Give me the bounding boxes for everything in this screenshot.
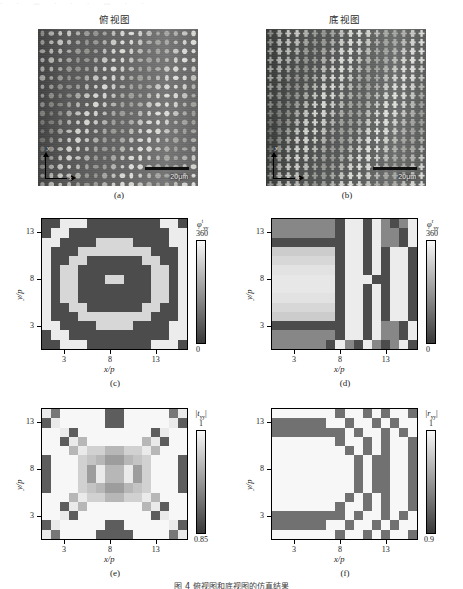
heatmap-cell — [42, 493, 51, 502]
x-tick-label: 8 — [330, 545, 350, 554]
heatmap-cell — [160, 483, 169, 492]
heatmap-cell — [299, 265, 308, 274]
heatmap-cell — [281, 219, 290, 228]
heatmap-cell — [354, 293, 363, 302]
heatmap-cell — [363, 275, 372, 284]
x-tick — [340, 540, 341, 544]
heatmap-cell — [69, 520, 78, 529]
heatmap-cell — [345, 284, 354, 293]
heatmap-cell — [151, 520, 160, 529]
heatmap-cell — [60, 437, 69, 446]
heatmap-cell — [78, 483, 87, 492]
heatmap-cell — [399, 293, 408, 302]
heatmap-cell — [317, 455, 326, 464]
heatmap-cell — [78, 502, 87, 511]
heatmap-cell — [272, 303, 281, 312]
heatmap-cell — [272, 228, 281, 237]
heatmap-cell — [124, 321, 133, 330]
heatmap-cell — [178, 409, 187, 418]
heatmap-cell — [372, 219, 381, 228]
heatmap-cell — [115, 284, 124, 293]
heatmap-cell — [151, 340, 160, 349]
heatmap-cell — [178, 437, 187, 446]
heatmap-cell — [408, 321, 417, 330]
heatmap-cell — [299, 340, 308, 349]
heatmap-cell — [115, 446, 124, 455]
heatmap-cell — [290, 511, 299, 520]
heatmap-cell — [96, 265, 105, 274]
heatmap-cell — [308, 530, 317, 539]
heatmap-cell — [169, 446, 178, 455]
heatmap-cell — [60, 511, 69, 520]
heatmap-cell — [105, 502, 114, 511]
heatmap-cell — [69, 502, 78, 511]
heatmap-cell — [399, 228, 408, 237]
heatmap-cell — [372, 321, 381, 330]
colorbar-title-e: |tyy| — [195, 408, 207, 420]
heatmap-cell — [345, 446, 354, 455]
heatmap-cell — [381, 437, 390, 446]
heatmap-cell — [308, 409, 317, 418]
heatmap-cell — [133, 530, 142, 539]
heatmap-cell — [87, 474, 96, 483]
heatmap-cell — [115, 228, 124, 237]
heatmap-cell — [272, 502, 281, 511]
heatmap-cell — [317, 483, 326, 492]
heatmap-cell — [372, 409, 381, 418]
heatmap-cell — [326, 474, 335, 483]
heatmap-cell — [124, 530, 133, 539]
heatmap-cell — [160, 530, 169, 539]
heatmap-cell — [345, 312, 354, 321]
heatmap-cell — [399, 446, 408, 455]
heatmap-cell — [381, 465, 390, 474]
heatmap-cell — [408, 238, 417, 247]
heatmap-cell — [345, 293, 354, 302]
heatmap-cell — [345, 520, 354, 529]
heatmap-cell — [345, 455, 354, 464]
heatmap-cell — [345, 275, 354, 284]
heatmap-cell — [105, 428, 114, 437]
y-axis-title-c: y/p — [14, 290, 24, 300]
heatmap-cell — [317, 437, 326, 446]
heatmap-cell — [354, 474, 363, 483]
heatmap-cell — [96, 465, 105, 474]
heatmap-cell — [105, 265, 114, 274]
heatmap-cell — [178, 228, 187, 237]
heatmap-cell — [308, 219, 317, 228]
heatmap-cell — [335, 321, 344, 330]
heatmap-cell — [299, 502, 308, 511]
heatmap-cell — [78, 428, 87, 437]
heatmap-cell — [390, 418, 399, 427]
heatmap-cell — [335, 465, 344, 474]
heatmap-cell — [96, 330, 105, 339]
heatmap-cell — [272, 511, 281, 520]
sem-image-top-view: 20μm y x — [38, 29, 198, 186]
heatmap-cell — [115, 493, 124, 502]
heatmap-cell — [51, 265, 60, 274]
heatmap-cell — [281, 502, 290, 511]
heatmap-cell — [42, 284, 51, 293]
heatmap-cell — [51, 284, 60, 293]
heatmap-cell — [363, 493, 372, 502]
heatmap-cell — [115, 428, 124, 437]
heatmap-cell — [299, 437, 308, 446]
heatmap-cell — [151, 293, 160, 302]
heatmap-cell — [399, 474, 408, 483]
heatmap-cell — [363, 483, 372, 492]
heatmap-cell — [151, 428, 160, 437]
heatmap-cell — [326, 238, 335, 247]
heatmap-cell — [281, 483, 290, 492]
heatmap-cell — [42, 483, 51, 492]
heatmap-cell — [408, 474, 417, 483]
heatmap-cell — [335, 409, 344, 418]
heatmap-cell — [326, 455, 335, 464]
heatmap-cell — [133, 446, 142, 455]
heatmap-cell — [326, 511, 335, 520]
heatmap-cell — [69, 238, 78, 247]
heatmap-cell — [105, 330, 114, 339]
heatmap-cell — [372, 303, 381, 312]
heatmap-cell — [290, 256, 299, 265]
heatmap-cell — [326, 428, 335, 437]
heatmap-cell — [42, 502, 51, 511]
scalebar-b — [373, 167, 417, 170]
